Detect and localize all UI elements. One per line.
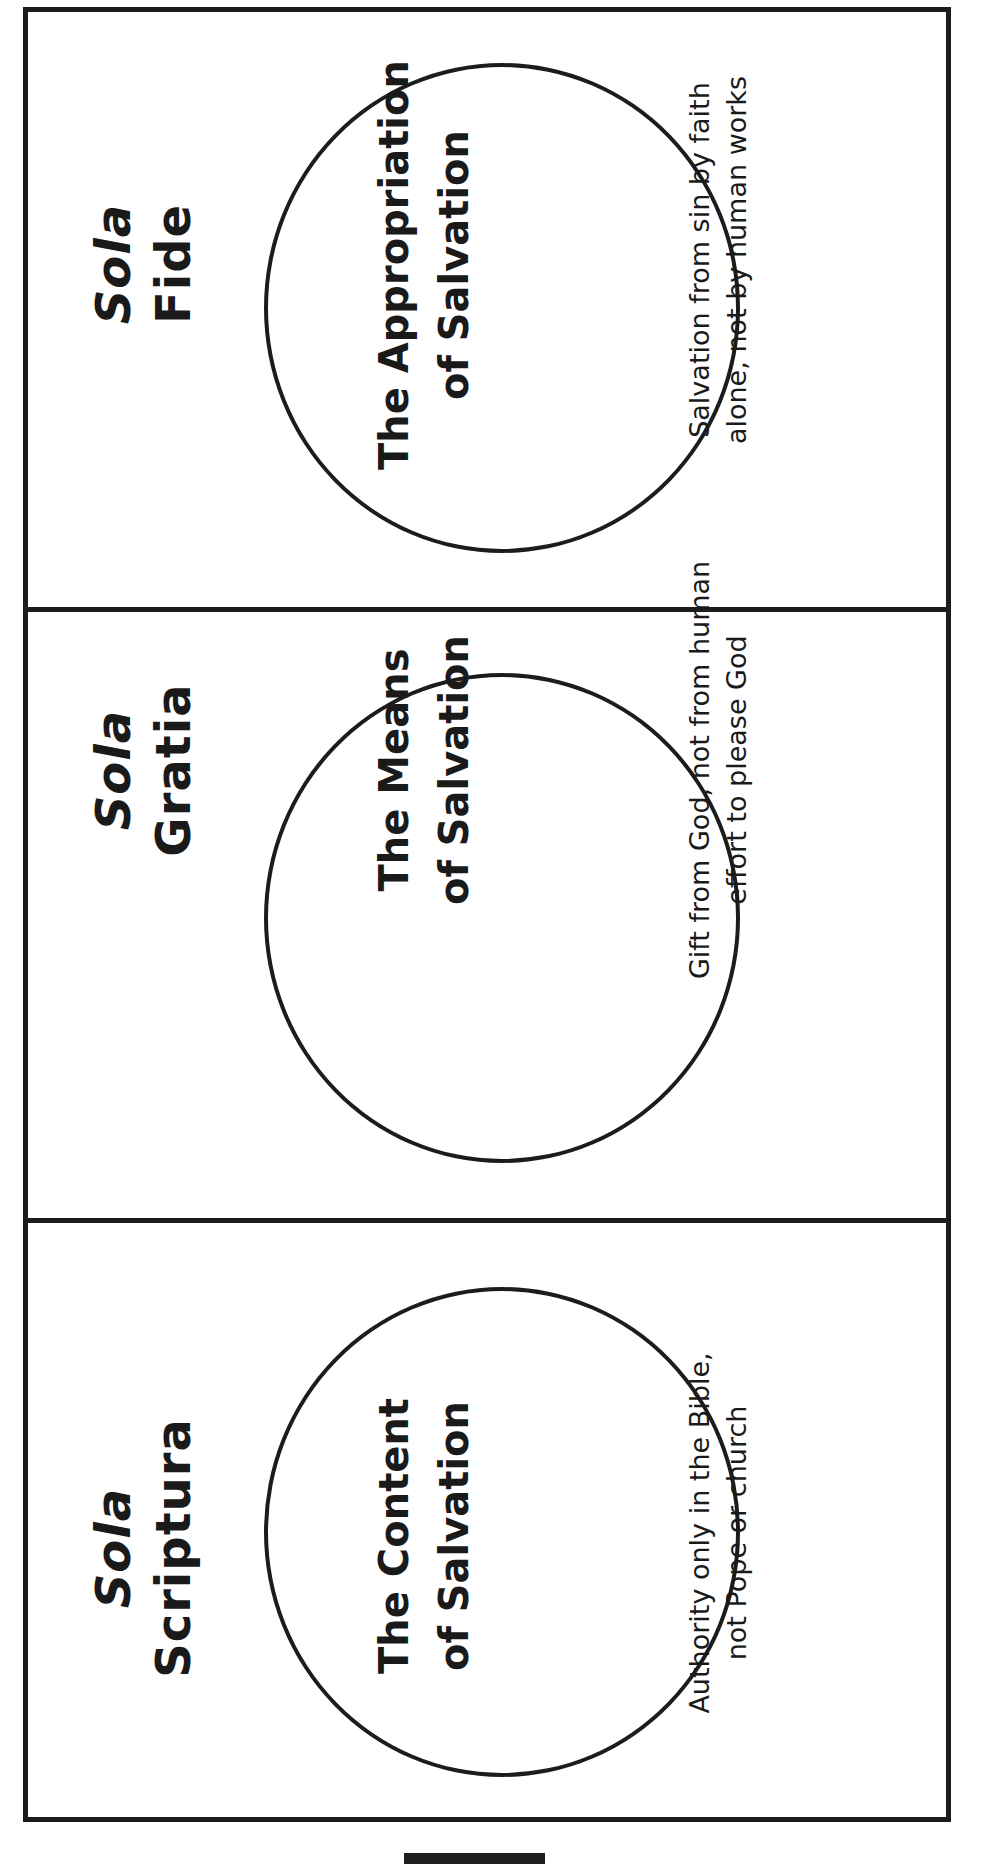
outer-frame: Sola Fide The Appropriation of Salvation… [23, 7, 951, 1822]
ellipse-label-line-2: of Salvation [424, 1398, 484, 1674]
description-line-2: alone, not by human works [718, 76, 755, 444]
description-line-1: Gift from God, not from human [681, 561, 718, 979]
heading-line-1: Sola [83, 1418, 143, 1678]
salvation-ellipse [264, 1287, 740, 1777]
description-line-1: Salvation from sin by faith [681, 76, 718, 444]
description-line-1: Authority only in the Bible, [681, 1352, 718, 1713]
ellipse-label-line-1: The Appropriation [364, 60, 424, 470]
ellipse-label-line-2: of Salvation [424, 60, 484, 470]
heading-line-2: Scriptura [143, 1418, 203, 1678]
heading-line-2: Fide [143, 204, 203, 324]
panel-sola-fide: Sola Fide The Appropriation of Salvation… [28, 12, 946, 607]
panel-sola-gratia: Sola Gratia The Means of Salvation Gift … [28, 612, 946, 1218]
ellipse-label-line-1: The Means [364, 635, 424, 905]
panel-sola-scriptura: Sola Scriptura The Content of Salvation … [28, 1223, 946, 1817]
ellipse-label: The Appropriation of Salvation [364, 60, 484, 470]
salvation-ellipse [264, 63, 740, 553]
panel-heading: Sola Scriptura [83, 1418, 203, 1678]
ellipse-label: The Means of Salvation [364, 635, 484, 905]
description-line-2: not Pope or church [718, 1352, 755, 1713]
panel-description: Gift from God, not from human effort to … [681, 561, 755, 979]
heading-line-1: Sola [83, 204, 143, 324]
panel-heading: Sola Fide [83, 204, 203, 324]
heading-line-1: Sola [83, 683, 143, 856]
salvation-ellipse [264, 673, 740, 1163]
page-tab-marker [404, 1853, 545, 1864]
panel-description: Authority only in the Bible, not Pope or… [681, 1352, 755, 1713]
panel-heading: Sola Gratia [83, 683, 203, 856]
ellipse-label: The Content of Salvation [364, 1398, 484, 1674]
ellipse-label-line-1: The Content [364, 1398, 424, 1674]
ellipse-label-line-2: of Salvation [424, 635, 484, 905]
description-line-2: effort to please God [718, 561, 755, 979]
heading-line-2: Gratia [143, 683, 203, 856]
panel-description: Salvation from sin by faith alone, not b… [681, 76, 755, 444]
